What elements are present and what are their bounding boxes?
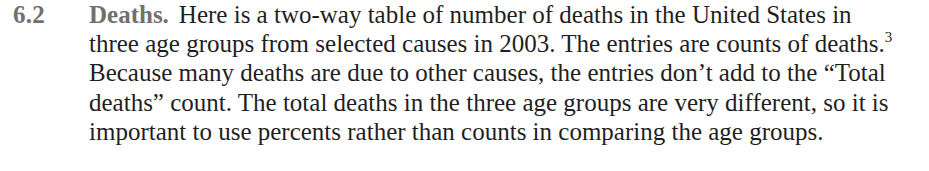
text-line-5: important to use percents rather than co…: [89, 117, 925, 146]
text-line-4: deaths” count. The total deaths in the t…: [89, 88, 925, 117]
exercise-number: 6.2: [13, 0, 45, 29]
line-2-text: three age groups from selected causes in…: [89, 30, 885, 57]
exercise-body: Deaths.Here is a two-way table of number…: [89, 0, 925, 146]
line-5-text: important to use percents rather than co…: [89, 118, 824, 145]
line-3-text: Because many deaths are due to other cau…: [89, 59, 886, 86]
line-4-text: deaths” count. The total deaths in the t…: [89, 89, 889, 116]
exercise-6-2: 6.2 Deaths.Here is a two-way table of nu…: [0, 0, 929, 171]
line-1-text: Here is a two-way table of number of dea…: [179, 1, 852, 28]
text-line-1: Deaths.Here is a two-way table of number…: [89, 0, 925, 29]
exercise-title: Deaths.: [89, 1, 169, 28]
text-line-2: three age groups from selected causes in…: [89, 29, 925, 58]
footnote-marker[interactable]: 3: [885, 29, 893, 45]
text-line-3: Because many deaths are due to other cau…: [89, 58, 925, 87]
